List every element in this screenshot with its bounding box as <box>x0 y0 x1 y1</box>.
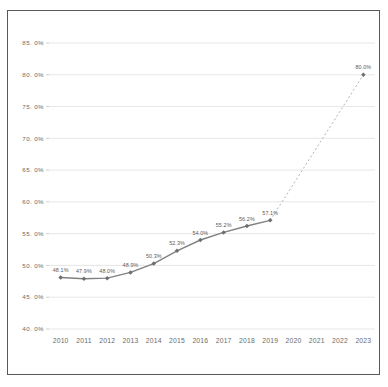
y-axis-tick-label: 45. 0% <box>22 293 44 300</box>
x-axis-tick-labels: 2010201120122013201420152016201720182019… <box>53 337 372 344</box>
chart-frame: 85. 0%80. 0%75. 0%70. 0%65. 0%60. 0%55. … <box>7 10 380 375</box>
chart-screenshot: 85. 0%80. 0%75. 0%70. 0%65. 0%60. 0%55. … <box>0 0 388 387</box>
data-point-marker <box>268 218 273 223</box>
y-axis-tick-label: 80. 0% <box>22 71 44 78</box>
data-point-label: 80.0% <box>355 64 371 70</box>
x-axis-tick-label: 2018 <box>239 337 255 344</box>
y-axis-tick-label: 40. 0% <box>22 325 44 332</box>
data-point-marker <box>105 276 110 281</box>
x-axis-tick-label: 2020 <box>286 337 302 344</box>
data-point-label: 54.0% <box>192 230 208 236</box>
y-axis-tick-label: 50. 0% <box>22 262 44 269</box>
y-axis-tick-labels: 85. 0%80. 0%75. 0%70. 0%65. 0%60. 0%55. … <box>22 39 44 332</box>
data-point-label: 57.1% <box>262 210 278 216</box>
y-axis-tick-label: 75. 0% <box>22 103 44 110</box>
y-axis-tick-label: 65. 0% <box>22 166 44 173</box>
data-point-marker <box>361 73 366 78</box>
line-chart-svg: 85. 0%80. 0%75. 0%70. 0%65. 0%60. 0%55. … <box>8 11 381 376</box>
x-axis-tick-label: 2012 <box>99 337 115 344</box>
data-point-label: 52.3% <box>169 240 185 246</box>
x-axis-tick-label: 2011 <box>76 337 91 344</box>
data-point-labels: 48.1%47.9%48.0%48.9%50.3%52.3%54.0%55.2%… <box>53 64 372 274</box>
y-axis-tick-label: 55. 0% <box>22 230 44 237</box>
data-point-label: 55.2% <box>216 222 232 228</box>
data-point-marker <box>245 224 250 229</box>
data-point-marker <box>128 270 133 275</box>
data-point-marker <box>198 238 203 243</box>
data-point-markers <box>58 73 365 282</box>
series-lines <box>61 75 364 279</box>
data-point-label: 48.9% <box>123 262 139 268</box>
data-point-label: 48.1% <box>53 267 69 273</box>
x-axis-tick-label: 2022 <box>332 337 348 344</box>
x-axis-tick-label: 2015 <box>169 337 185 344</box>
data-point-marker <box>82 277 87 282</box>
x-axis-tick-label: 2010 <box>53 337 69 344</box>
y-axis-tick-label: 85. 0% <box>22 39 44 46</box>
x-axis-tick-label: 2023 <box>355 337 371 344</box>
series-line-projection <box>270 75 363 221</box>
x-axis-tick-label: 2017 <box>216 337 232 344</box>
y-axis-tick-label: 60. 0% <box>22 198 44 205</box>
x-axis-tick-label: 2019 <box>262 337 278 344</box>
gridlines <box>46 43 375 329</box>
data-point-marker <box>58 275 63 280</box>
x-axis-tick-label: 2016 <box>192 337 208 344</box>
plot-area: 85. 0%80. 0%75. 0%70. 0%65. 0%60. 0%55. … <box>8 11 381 376</box>
data-point-label: 48.0% <box>99 268 115 274</box>
y-axis-tick-label: 70. 0% <box>22 135 44 142</box>
data-point-label: 56.2% <box>239 216 255 222</box>
x-axis-tick-label: 2013 <box>123 337 139 344</box>
x-axis-tick-label: 2014 <box>146 337 162 344</box>
data-point-label: 47.9% <box>76 268 92 274</box>
series-line-actual <box>61 220 271 278</box>
data-point-label: 50.3% <box>146 253 162 259</box>
x-axis-tick-label: 2021 <box>309 337 325 344</box>
